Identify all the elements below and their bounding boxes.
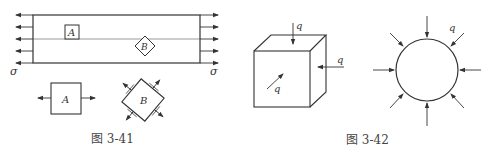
- sphere-section: [396, 39, 458, 101]
- cube: [254, 35, 326, 107]
- detail-a-label: A: [61, 94, 69, 105]
- right-stress-arrows: [200, 15, 218, 63]
- sigma-label-right: σ: [210, 65, 218, 78]
- sigma-label-left: σ: [10, 65, 18, 78]
- cube-load-front-label: q: [274, 83, 280, 94]
- caption-fig-3-41: 图 3-41: [91, 132, 134, 146]
- radial-pressure-arrows: [373, 16, 481, 126]
- element-b-label: B: [140, 42, 148, 52]
- figure-3-42: q q q q 图 3-42: [254, 16, 481, 147]
- caption-fig-3-42: 图 3-42: [346, 133, 389, 147]
- figure-canvas: σ σ A B A: [0, 0, 491, 154]
- left-stress-arrows: [16, 15, 33, 63]
- cube-load-top-label: q: [296, 20, 302, 31]
- detail-b-label: B: [139, 95, 147, 106]
- figure-3-41: σ σ A B A: [10, 15, 218, 146]
- element-a-label: A: [67, 27, 75, 38]
- circle-load-label: q: [449, 22, 455, 33]
- cube-load-right-label: q: [337, 54, 343, 65]
